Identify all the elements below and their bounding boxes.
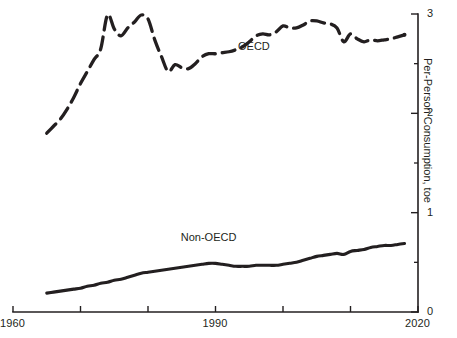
series-path-non-oecd: [47, 243, 405, 293]
series-path-oecd: [47, 14, 405, 133]
x-axis-label-1960: 1960: [0, 318, 25, 329]
y-axis-title: Per-Person Consumption, toe: [422, 58, 433, 258]
series-label-oecd: OECD: [238, 41, 270, 52]
x-axis-label-1990: 1990: [203, 318, 228, 329]
x-axis-label-2020: 2020: [405, 318, 430, 329]
series-label-non-oecd: Non-OECD: [181, 232, 237, 243]
y-axis-label-3: 3: [427, 8, 433, 19]
series-end-dot-oecd: [403, 33, 407, 37]
chart-series: [47, 14, 407, 293]
chart-plot-area: [0, 0, 457, 338]
chart-axes: [13, 14, 418, 312]
chart-container: 196019902020 0123 OECD Non-OECD Per-Pers…: [0, 0, 457, 338]
y-axis-label-0: 0: [427, 306, 433, 317]
